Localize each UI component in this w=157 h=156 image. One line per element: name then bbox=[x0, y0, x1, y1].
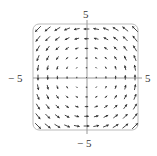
arrowhead-icon bbox=[37, 78, 40, 80]
tick-label-left: − 5 bbox=[8, 73, 22, 84]
arrowhead-icon bbox=[46, 78, 49, 80]
tick-label-right: 5 bbox=[145, 73, 151, 84]
tick-label-top: 5 bbox=[83, 9, 89, 20]
arrowhead-icon bbox=[84, 37, 86, 40]
arrowhead-icon bbox=[134, 75, 137, 77]
arrowhead-icon bbox=[85, 47, 87, 49]
arrowhead-icon bbox=[124, 75, 127, 77]
arrowhead-icon bbox=[87, 115, 89, 118]
arrowhead-icon bbox=[84, 28, 86, 31]
vector-field-plot bbox=[0, 0, 157, 156]
arrowhead-icon bbox=[87, 125, 89, 128]
plot-frame bbox=[33, 24, 138, 130]
arrowhead-icon bbox=[105, 76, 106, 77]
arrowhead-icon bbox=[115, 76, 117, 78]
tick-label-bottom: − 5 bbox=[77, 138, 91, 149]
arrowhead-icon bbox=[85, 57, 86, 58]
